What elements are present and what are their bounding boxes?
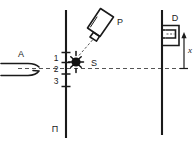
diagram-canvas: A П 1 2 3 [0,0,195,141]
probe-applicator [88,9,114,42]
scale-mark-3: 3 [54,76,59,86]
detector-label: D [172,13,179,23]
schematic-svg: A П 1 2 3 [0,0,195,141]
x-dimension-label: x [187,45,192,55]
probe-label: P [117,17,123,27]
scale-mark-2: 2 [54,64,59,74]
radiation-source-point [69,52,84,73]
plate-label: П [52,124,58,134]
accelerator-beam-tube [1,64,39,76]
scale-ticks [62,53,71,87]
source-label: S [91,58,97,68]
detector-box [162,26,179,46]
scale-mark-1: 1 [54,53,59,63]
accelerator-label: A [18,49,24,59]
x-dimension-arrow [180,32,188,69]
probe-beam-line [79,40,93,56]
